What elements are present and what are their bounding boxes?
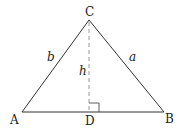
vertex-label-d: D <box>85 114 95 128</box>
triangle-diagram: C A B D b a h <box>0 0 179 129</box>
side-a-cb <box>89 20 164 112</box>
side-label-b: b <box>47 50 55 64</box>
side-label-a: a <box>129 50 136 64</box>
vertex-label-a: A <box>9 113 19 127</box>
vertex-label-c: C <box>85 5 94 19</box>
vertex-label-b: B <box>165 112 174 126</box>
right-angle-marker <box>89 103 99 112</box>
altitude-label-h: h <box>79 64 87 78</box>
